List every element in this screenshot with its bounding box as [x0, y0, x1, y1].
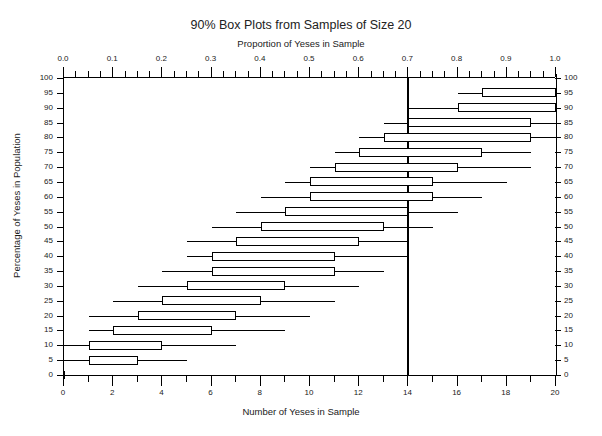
- top-tick: [555, 67, 556, 77]
- y-tick-left: [57, 212, 63, 213]
- top-tick: [186, 71, 187, 77]
- top-tick: [444, 71, 445, 77]
- y-tick-label-left: 10: [33, 340, 53, 349]
- y-tick-right: [555, 78, 561, 79]
- top-tick: [309, 67, 310, 77]
- y-tick-label-right: 100: [564, 73, 584, 82]
- y-tick-label-right: 80: [564, 132, 584, 141]
- y-tick-right: [555, 212, 561, 213]
- bottom-tick-label: 8: [243, 388, 277, 397]
- top-tick: [149, 71, 150, 77]
- y-tick-left: [57, 286, 63, 287]
- y-tick-label-right: 10: [564, 340, 584, 349]
- boxplot-box: [89, 356, 138, 365]
- y-tick-label-left: 25: [33, 296, 53, 305]
- boxplot-box: [310, 192, 433, 201]
- top-tick-label: 0.2: [144, 54, 178, 63]
- y-tick-label-left: 20: [33, 311, 53, 320]
- y-tick-left: [57, 256, 63, 257]
- bottom-tick: [235, 376, 236, 382]
- y-tick-label-right: 95: [564, 88, 584, 97]
- y-tick-label-left: 55: [33, 207, 53, 216]
- y-tick-label-left: 65: [33, 177, 53, 186]
- y-tick-left: [57, 137, 63, 138]
- y-tick-right: [555, 286, 561, 287]
- y-tick-label-left: 80: [33, 132, 53, 141]
- top-tick: [358, 67, 359, 77]
- top-tick: [248, 71, 249, 77]
- y-tick-label-right: 75: [564, 147, 584, 156]
- bottom-tick-label: 16: [440, 388, 474, 397]
- top-tick: [125, 71, 126, 77]
- top-tick: [494, 71, 495, 77]
- boxplot-box: [285, 207, 408, 216]
- top-tick: [395, 71, 396, 77]
- bottom-tick: [211, 376, 212, 386]
- top-tick: [235, 71, 236, 77]
- bottom-tick: [309, 376, 310, 386]
- y-tick-label-right: 60: [564, 192, 584, 201]
- bottom-tick: [457, 376, 458, 386]
- top-tick: [481, 71, 482, 77]
- y-tick-label-right: 40: [564, 251, 584, 260]
- top-tick: [174, 71, 175, 77]
- top-tick: [88, 71, 89, 77]
- bottom-tick: [186, 376, 187, 382]
- bottom-tick: [161, 376, 162, 386]
- boxplot-box: [187, 281, 285, 290]
- bottom-tick-label: 14: [390, 388, 424, 397]
- top-tick: [432, 71, 433, 77]
- bottom-tick: [358, 376, 359, 386]
- y-tick-label-right: 65: [564, 177, 584, 186]
- bottom-tick-label: 20: [538, 388, 572, 397]
- boxplot-box: [212, 267, 335, 276]
- bottom-tick: [88, 376, 89, 382]
- y-tick-right: [555, 241, 561, 242]
- top-tick: [334, 71, 335, 77]
- boxplot-box: [261, 222, 384, 231]
- y-axis-label: Percentage of Yeses in Population: [11, 76, 22, 336]
- y-tick-label-left: 100: [33, 73, 53, 82]
- top-tick: [112, 67, 113, 77]
- y-tick-right: [555, 108, 561, 109]
- bottom-tick: [260, 376, 261, 386]
- top-tick: [272, 71, 273, 77]
- y-tick-right: [555, 167, 561, 168]
- top-tick: [383, 71, 384, 77]
- boxplot-box: [138, 311, 236, 320]
- y-tick-left: [57, 330, 63, 331]
- top-tick-label: 0.5: [292, 54, 326, 63]
- y-tick-right: [555, 330, 561, 331]
- boxplot-box: [113, 326, 211, 335]
- y-tick-label-right: 5: [564, 355, 584, 364]
- y-tick-label-right: 70: [564, 162, 584, 171]
- y-tick-label-left: 90: [33, 103, 53, 112]
- y-tick-label-left: 30: [33, 281, 53, 290]
- y-tick-left: [57, 123, 63, 124]
- y-tick-right: [555, 375, 561, 376]
- y-tick-right: [555, 227, 561, 228]
- y-tick-label-left: 85: [33, 118, 53, 127]
- y-tick-left: [57, 197, 63, 198]
- plot-area: [63, 78, 557, 375]
- y-tick-right: [555, 316, 561, 317]
- y-tick-left: [57, 108, 63, 109]
- y-tick-right: [555, 152, 561, 153]
- top-tick-label: 0.1: [95, 54, 129, 63]
- y-tick-label-right: 20: [564, 311, 584, 320]
- bottom-tick: [137, 376, 138, 382]
- bottom-tick: [506, 376, 507, 386]
- y-tick-left: [57, 316, 63, 317]
- bottom-tick-label: 0: [46, 388, 80, 397]
- y-tick-label-left: 40: [33, 251, 53, 260]
- y-tick-label-left: 5: [33, 355, 53, 364]
- bottom-tick-label: 4: [144, 388, 178, 397]
- y-tick-left: [57, 271, 63, 272]
- chart-subtitle: Proportion of Yeses in Sample: [0, 38, 602, 49]
- top-tick: [321, 71, 322, 77]
- bottom-tick-label: 2: [95, 388, 129, 397]
- top-tick: [371, 71, 372, 77]
- y-tick-right: [555, 256, 561, 257]
- top-tick-label: 0.8: [440, 54, 474, 63]
- top-tick: [407, 67, 408, 77]
